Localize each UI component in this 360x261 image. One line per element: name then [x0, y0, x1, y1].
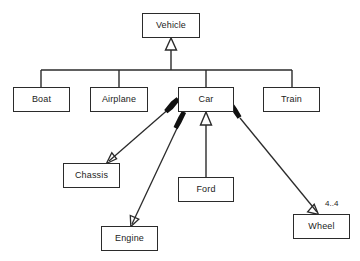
- generalization-tree-vehicle: [41, 48, 292, 87]
- edge-car-engine: [132, 124, 179, 224]
- class-name-ford: Ford: [196, 185, 215, 194]
- class-box-car[interactable]: Car: [178, 87, 234, 112]
- class-box-train[interactable]: Train: [263, 87, 320, 112]
- arrowhead-icon-engine: [130, 215, 139, 226]
- class-box-ford[interactable]: Ford: [178, 177, 234, 202]
- filled-diamond-icon-engine: [176, 112, 184, 128]
- class-box-chassis[interactable]: Chassis: [63, 163, 120, 188]
- class-name-train: Train: [281, 95, 302, 104]
- class-box-wheel[interactable]: Wheel: [293, 214, 350, 239]
- arrowhead-icon-wheel: [308, 204, 319, 214]
- multiplicity-label-wheel: 4..4: [325, 200, 338, 208]
- class-name-boat: Boat: [32, 95, 51, 104]
- edge-car-wheel: [240, 118, 317, 212]
- class-name-engine: Engine: [115, 234, 144, 243]
- class-box-vehicle[interactable]: Vehicle: [142, 13, 200, 38]
- hollow-triangle-icon-vehicle: [166, 38, 177, 50]
- edge-car-chassis: [109, 107, 171, 161]
- class-box-engine[interactable]: Engine: [101, 226, 158, 251]
- filled-diamond-icon-chassis: [166, 99, 178, 112]
- class-name-airplane: Airplane: [102, 95, 136, 104]
- class-name-vehicle: Vehicle: [156, 21, 186, 30]
- class-name-wheel: Wheel: [308, 222, 334, 231]
- class-name-chassis: Chassis: [75, 171, 108, 180]
- class-name-car: Car: [199, 95, 214, 104]
- class-box-airplane[interactable]: Airplane: [90, 87, 148, 112]
- uml-class-diagram: Vehicle Boat Airplane Car Train Chassis …: [0, 0, 360, 261]
- hollow-triangle-icon-car: [201, 112, 212, 125]
- class-box-boat[interactable]: Boat: [13, 87, 70, 112]
